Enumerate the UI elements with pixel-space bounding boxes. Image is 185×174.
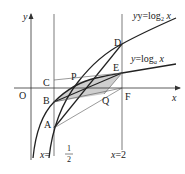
point-label-B: B <box>43 95 50 106</box>
point-label-D: D <box>114 37 121 48</box>
log-graph-diagram: y x O A B C D E F P Q yy=log2 x y=loga x… <box>0 0 185 174</box>
half-numerator: 1 <box>67 144 71 153</box>
point-label-A: A <box>44 119 52 130</box>
curve-loga-label: y=loga x <box>130 53 164 65</box>
line-B-E <box>54 73 122 102</box>
x-axis-arrow-icon <box>175 86 181 91</box>
half-denominator: 2 <box>67 155 71 164</box>
line-x-2-label: x=2 <box>110 149 126 160</box>
point-label-C: C <box>43 77 50 88</box>
y-axis-label: y <box>22 11 28 22</box>
y-axis-arrow-icon <box>29 13 34 19</box>
line-A-D <box>54 44 122 128</box>
point-label-F: F <box>125 91 131 102</box>
point-label-Q: Q <box>102 95 110 106</box>
x-axis-label: x <box>171 92 177 103</box>
curve-log2-label: yy=log2 x <box>132 10 171 22</box>
origin-label: O <box>19 90 26 101</box>
point-label-P: P <box>71 71 77 82</box>
point-label-E: E <box>113 62 119 73</box>
line-x-half-label: x= <box>39 149 50 160</box>
